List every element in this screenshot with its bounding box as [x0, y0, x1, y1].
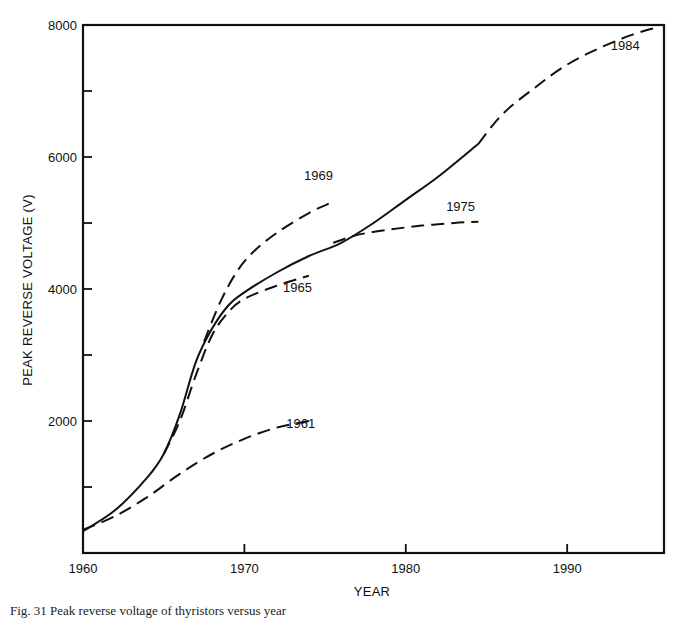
curve-label-1969: 1969 [304, 168, 333, 183]
series-1975-line [333, 222, 478, 243]
y-axis-ticks: 2000400060008000 [48, 18, 92, 487]
curve-label-1965: 1965 [283, 280, 312, 295]
plot-frame [83, 25, 664, 553]
series-1961-line [83, 421, 309, 530]
plot-border [83, 25, 664, 553]
curve-labels: 19611965196919751984 [283, 38, 640, 431]
y-axis-title: PEAK REVERSE VOLTAGE (V) [20, 194, 35, 386]
curve-label-1984: 1984 [611, 38, 640, 53]
curve-label-1961: 1961 [286, 416, 315, 431]
x-tick-label: 1990 [553, 561, 582, 576]
y-tick-label: 8000 [48, 18, 77, 33]
series-actual-line [83, 144, 478, 531]
y-tick-label: 2000 [48, 414, 77, 429]
x-tick-label: 1970 [230, 561, 259, 576]
x-tick-label: 1960 [69, 561, 98, 576]
x-tick-label: 1980 [391, 561, 420, 576]
curve-label-1975: 1975 [446, 199, 475, 214]
figure-caption: Fig. 31 Peak reverse voltage of thyristo… [10, 603, 286, 619]
x-axis-title: YEAR [354, 584, 391, 599]
series-1969-line [204, 203, 330, 342]
series-layer [83, 28, 656, 532]
y-tick-label: 6000 [48, 150, 77, 165]
x-axis-ticks: 1960197019801990 [69, 544, 582, 576]
y-tick-label: 4000 [48, 282, 77, 297]
